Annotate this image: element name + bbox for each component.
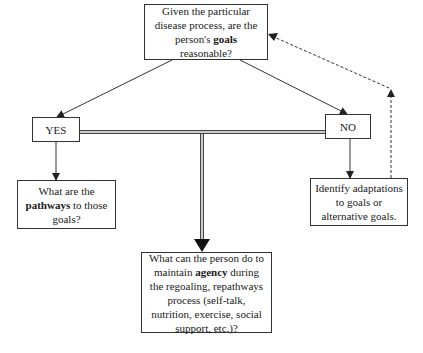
adaptations-box: Identify adaptations to goals or alterna… [310, 178, 408, 226]
yes-label: YES [46, 123, 67, 137]
goals-reasonable-question-box: Given the particular disease process, ar… [144, 4, 268, 60]
yes-box: YES [32, 117, 80, 142]
edge-main-to-no [240, 60, 347, 114]
agency-box: What can the person do to maintain agenc… [141, 252, 272, 333]
pathways-bold-text: pathways [26, 199, 71, 211]
question-text: Given the particular disease process, ar… [155, 5, 258, 45]
goals-bold-text: goals [213, 33, 237, 45]
double-connector-vertical [201, 133, 204, 240]
double-connector-horizontal [80, 131, 325, 134]
no-box: NO [325, 114, 371, 139]
dashed-feedback-arrow [268, 33, 395, 178]
edge-main-to-yes [57, 60, 172, 117]
pathways-box: What are the pathways to those goals? [17, 180, 116, 229]
pathways-text: What are the [38, 185, 94, 197]
adaptations-text: Identify adaptations to goals or alterna… [315, 181, 403, 223]
no-label: NO [340, 120, 356, 134]
question-text-end: reasonable? [180, 47, 232, 59]
agency-bold-text: agency [195, 266, 227, 278]
